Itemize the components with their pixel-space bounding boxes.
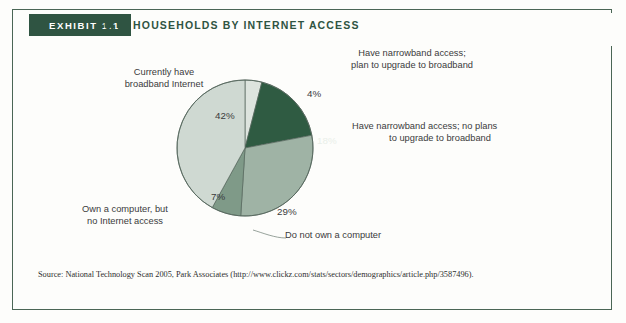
source-note: Source: National Technology Scan 2005, P… bbox=[38, 270, 474, 279]
pie-label-own-computer-line1: Own a computer, but bbox=[57, 203, 193, 215]
pie-chart bbox=[176, 79, 314, 217]
pie-label-narrowband-no-plans-line1: Have narrowband access; no plans bbox=[352, 120, 542, 132]
pie-value-broadband: 42% bbox=[215, 110, 235, 121]
pie-label-do-not-own-computer: Do not own a computer bbox=[285, 229, 445, 241]
chart-title: U.S. HOUSEHOLDS BY INTERNET ACCESS bbox=[104, 18, 360, 32]
pie-label-broadband: Currently have broadband Internet bbox=[105, 66, 223, 90]
pie-slice-do-not-own-computer bbox=[241, 135, 313, 216]
pie-label-narrowband-no-plans-line2: to upgrade to broadband bbox=[352, 132, 528, 144]
callout-leader-line bbox=[253, 229, 287, 243]
pie-label-own-computer-line2: no Internet access bbox=[57, 215, 193, 227]
pie-value-do-not-own-computer: 29% bbox=[277, 206, 297, 217]
pie-value-narrowband-upgrade: 4% bbox=[307, 88, 321, 99]
exhibit-page: EXHIBIT 1.1 U.S. HOUSEHOLDS BY INTERNET … bbox=[0, 0, 626, 323]
pie-label-broadband-line2: broadband Internet bbox=[105, 78, 223, 90]
pie-label-narrowband-upgrade: Have narrowband access; plan to upgrade … bbox=[318, 47, 506, 71]
pie-label-broadband-line1: Currently have bbox=[105, 66, 223, 78]
pie-label-narrowband-upgrade-line2: plan to upgrade to broadband bbox=[318, 59, 506, 71]
pie-chart-svg bbox=[176, 79, 314, 217]
pie-label-narrowband-no-plans: Have narrowband access; no plans to upgr… bbox=[352, 120, 542, 144]
pie-value-narrowband-no-plans: 18% bbox=[317, 135, 337, 146]
pie-label-narrowband-upgrade-line1: Have narrowband access; bbox=[318, 47, 506, 59]
pie-label-own-computer-no-internet: Own a computer, but no Internet access bbox=[57, 203, 193, 227]
title-bar-mask bbox=[118, 36, 612, 46]
pie-value-own-computer-no-internet: 7% bbox=[211, 191, 225, 202]
